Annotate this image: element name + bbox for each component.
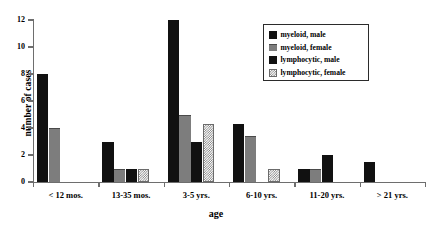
legend-item: myeloid, female xyxy=(269,42,363,54)
legend-item: myeloid, male xyxy=(269,29,363,41)
bar xyxy=(126,169,137,183)
x-tick-label: > 21 yrs. xyxy=(347,190,432,200)
bar xyxy=(179,115,190,183)
bar xyxy=(37,74,48,182)
chart-legend: myeloid, malemyeloid, femalelymphocytic,… xyxy=(263,24,369,81)
legend-label: myeloid, male xyxy=(281,31,326,39)
x-tick-mark xyxy=(164,182,165,187)
legend-swatch-icon xyxy=(269,44,277,52)
legend-label: myeloid, female xyxy=(281,44,332,52)
bar xyxy=(298,169,309,183)
bar xyxy=(233,124,244,182)
bar xyxy=(268,169,279,183)
bar xyxy=(49,128,60,182)
legend-item: lymphocytic, female xyxy=(269,67,363,79)
bar xyxy=(191,142,202,183)
x-tick-mark xyxy=(425,182,426,187)
bar xyxy=(364,162,375,182)
bar-chart: number of cases 024681012 < 12 mos.13-35… xyxy=(0,0,432,230)
bar xyxy=(114,169,125,183)
bar xyxy=(138,169,149,183)
bar xyxy=(168,20,179,182)
y-tick-label: 12 xyxy=(3,15,25,24)
legend-item: lymphocytic, male xyxy=(269,54,363,66)
legend-swatch-icon xyxy=(269,56,277,64)
bar xyxy=(322,155,333,182)
x-tick-mark xyxy=(294,182,295,187)
legend-swatch-icon xyxy=(269,69,277,77)
y-tick-label: 8 xyxy=(3,69,25,78)
y-tick-label: 2 xyxy=(3,150,25,159)
x-tick-mark xyxy=(33,182,34,187)
x-tick-mark xyxy=(360,182,361,187)
x-tick-mark xyxy=(229,182,230,187)
bar xyxy=(203,124,214,182)
legend-label: lymphocytic, male xyxy=(281,56,340,64)
bar xyxy=(310,169,321,183)
bar xyxy=(102,142,113,183)
y-tick-label: 4 xyxy=(3,123,25,132)
y-tick-label: 0 xyxy=(3,177,25,186)
x-tick-mark xyxy=(98,182,99,187)
y-tick-label: 6 xyxy=(3,96,25,105)
x-axis-title: age xyxy=(0,208,432,219)
legend-label: lymphocytic, female xyxy=(281,69,346,77)
legend-swatch-icon xyxy=(269,31,277,39)
y-tick-label: 10 xyxy=(3,42,25,51)
bar xyxy=(245,136,256,182)
